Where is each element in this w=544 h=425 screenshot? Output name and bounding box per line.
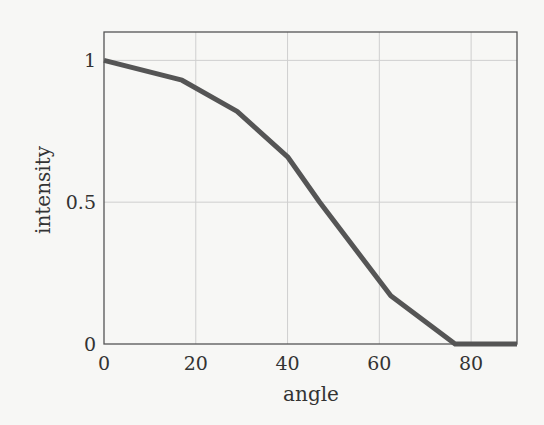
x-tick-label: 40 xyxy=(275,352,299,374)
x-tick-label: 60 xyxy=(367,352,391,374)
y-axis-label: intensity xyxy=(31,145,55,234)
x-tick-label: 20 xyxy=(184,352,208,374)
y-tick-label: 1 xyxy=(84,49,96,71)
x-tick-label: 80 xyxy=(459,352,483,374)
y-axis-ticks: 00.51 xyxy=(66,49,96,355)
x-axis-label: angle xyxy=(283,382,339,406)
x-axis-ticks: 020406080 xyxy=(98,352,483,374)
x-tick-label: 0 xyxy=(98,352,110,374)
y-tick-label: 0.5 xyxy=(66,191,96,213)
line-chart: 020406080 00.51 angle intensity xyxy=(0,0,544,425)
y-tick-label: 0 xyxy=(84,333,96,355)
